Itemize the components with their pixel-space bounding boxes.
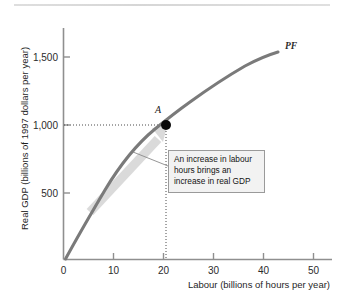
y-axis-title: Real GDP (billions of 1997 dollars per y… bbox=[19, 47, 30, 230]
point-a-marker bbox=[161, 120, 171, 130]
x-axis-title: Labour (billions of hours per year) bbox=[188, 279, 330, 290]
x-tick-label-10: 10 bbox=[108, 265, 120, 276]
x-tick-label-20: 20 bbox=[158, 265, 170, 276]
pf-curve-label: PF bbox=[285, 41, 298, 51]
y-tick-label-1000: 1,000 bbox=[33, 120, 58, 131]
callout-line-3: increase in real GDP bbox=[174, 176, 260, 187]
production-function-figure: 1,500 1,000 500 0 10 20 30 40 50 Labour … bbox=[0, 0, 344, 301]
increase-arrow bbox=[90, 126, 167, 212]
x-tick-label-30: 30 bbox=[208, 265, 220, 276]
x-tick-label-50: 50 bbox=[308, 265, 320, 276]
x-tick-label-0: 0 bbox=[61, 265, 67, 276]
labour-increase-callout: An increase in labour hours brings an in… bbox=[168, 150, 265, 193]
point-a-label: A bbox=[154, 104, 162, 115]
y-tick-label-1500: 1,500 bbox=[33, 52, 58, 63]
x-tick-label-40: 40 bbox=[258, 265, 270, 276]
callout-line-1: An increase in labour bbox=[174, 154, 260, 165]
y-tick-label-500: 500 bbox=[41, 188, 58, 199]
callout-line-2: hours brings an bbox=[174, 165, 260, 176]
